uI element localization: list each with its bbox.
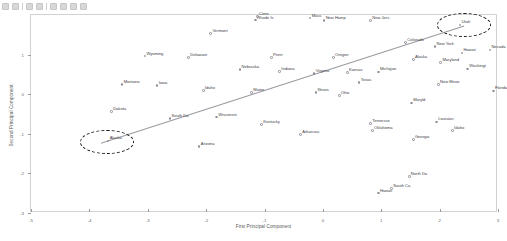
x-tick-label: 0 bbox=[322, 218, 324, 223]
x-tick bbox=[89, 209, 90, 212]
data-point-label: South Da bbox=[172, 113, 189, 118]
outlier-high-ellipse bbox=[437, 13, 491, 37]
data-point-label: Kansas bbox=[349, 67, 363, 72]
x-tick-label: -3 bbox=[146, 218, 150, 223]
data-point-label: Arkansas bbox=[302, 129, 319, 134]
data-point-label: Florida bbox=[495, 85, 507, 90]
data-point-label: Ohio bbox=[341, 90, 350, 95]
zoom-out-icon[interactable] bbox=[50, 3, 57, 10]
data-point-label: New Hamp bbox=[326, 15, 346, 20]
data-point-label: Arizona bbox=[201, 141, 215, 146]
y-axis-label: Second Principal Component bbox=[9, 66, 14, 166]
data-point-label: Idaho bbox=[205, 85, 215, 90]
data-point-label: New York bbox=[437, 41, 454, 46]
x-tick bbox=[323, 209, 324, 212]
save-icon[interactable] bbox=[26, 3, 33, 10]
x-tick-label: 1 bbox=[380, 218, 382, 223]
data-point-label: Georgia bbox=[415, 134, 429, 139]
toolbar bbox=[0, 0, 507, 12]
toolbar-divider bbox=[22, 3, 23, 10]
x-tick bbox=[381, 209, 382, 212]
data-point-label: Kentucky bbox=[263, 119, 280, 124]
y-tick bbox=[28, 213, 31, 214]
data-point-label: Hawaii bbox=[380, 188, 392, 193]
zoom-in-icon[interactable] bbox=[36, 3, 43, 10]
x-tick-label: -5 bbox=[29, 218, 33, 223]
config-icon[interactable] bbox=[70, 3, 77, 10]
data-point-label: Iowa bbox=[159, 80, 168, 85]
data-point-label: Michigan bbox=[380, 66, 396, 71]
y-tick bbox=[28, 173, 31, 174]
x-tick bbox=[31, 209, 32, 212]
data-point-label: Hawaii bbox=[463, 47, 475, 52]
data-point-label: New Mexic bbox=[440, 79, 460, 84]
x-tick-label: -2 bbox=[204, 218, 208, 223]
data-point-label: Washingt bbox=[469, 63, 486, 68]
data-point-label: Montana bbox=[124, 79, 140, 84]
x-tick-label: 2 bbox=[438, 218, 440, 223]
data-point-label: Delaware bbox=[190, 52, 207, 57]
data-point-label: Wyoming bbox=[146, 51, 163, 56]
data-point-label: Mass bbox=[312, 13, 322, 18]
x-tick bbox=[265, 209, 266, 212]
data-point-label: Maryld bbox=[413, 97, 425, 102]
outlier-low-ellipse bbox=[80, 130, 134, 154]
x-tick-label: 3 bbox=[497, 218, 499, 223]
data-point-label: South Ca bbox=[393, 183, 410, 188]
data-point-label: Idaho bbox=[454, 125, 464, 130]
y-tick-label: 1 bbox=[22, 52, 24, 57]
data-point-label: Wisconsin bbox=[218, 112, 236, 117]
x-tick-label: -1 bbox=[263, 218, 267, 223]
x-tick bbox=[206, 209, 207, 212]
data-point-label: Conn bbox=[259, 11, 269, 16]
data-point-label: Louisian bbox=[438, 116, 453, 121]
open-icon[interactable] bbox=[12, 3, 19, 10]
data-point-label: Penn bbox=[273, 52, 282, 57]
plot-area: Rhode IsConnMassNew HampNew JersVermontU… bbox=[30, 14, 497, 212]
x-tick bbox=[498, 209, 499, 212]
scatter-plot-figure: Second Principal Component Rhode IsConnM… bbox=[0, 12, 507, 241]
x-tick-label: -4 bbox=[87, 218, 91, 223]
data-point-label: Maryland bbox=[442, 57, 459, 62]
y-tick-label: -1 bbox=[20, 131, 24, 136]
x-tick bbox=[148, 209, 149, 212]
data-point-label: Illinois bbox=[317, 87, 328, 92]
data-point-label: Colorado bbox=[407, 37, 423, 42]
y-tick bbox=[28, 94, 31, 95]
new-icon[interactable] bbox=[2, 3, 9, 10]
trend-line-layer bbox=[31, 15, 498, 213]
data-point-label: Oregon bbox=[335, 52, 349, 57]
data-point-label: Oklahoma bbox=[374, 125, 393, 130]
data-point-label: Maine bbox=[253, 87, 264, 92]
data-point-label: Texas bbox=[361, 77, 372, 82]
data-point-label: New Jers bbox=[372, 15, 389, 20]
y-tick-label: 0 bbox=[22, 92, 24, 97]
data-point-label: Dakota bbox=[113, 106, 126, 111]
data-point-label: Vermont bbox=[212, 28, 227, 33]
data-point-label: Nevada bbox=[491, 44, 505, 49]
data-point-label: North Da bbox=[411, 171, 427, 176]
x-tick bbox=[440, 209, 441, 212]
data-point-label: Tennesse bbox=[372, 118, 389, 123]
y-tick-label: -3 bbox=[20, 211, 24, 216]
data-point-label: Nebraska bbox=[242, 64, 259, 69]
data-point-label: Indiana bbox=[281, 66, 294, 71]
y-tick bbox=[28, 134, 31, 135]
y-tick-label: -2 bbox=[20, 171, 24, 176]
data-point-label: Alaska bbox=[415, 54, 427, 59]
export-icon[interactable] bbox=[80, 3, 87, 10]
x-axis-label: First Principal Component bbox=[30, 224, 497, 229]
data-point-label: Virginia bbox=[316, 68, 329, 73]
pan-icon[interactable] bbox=[60, 3, 67, 10]
toolbar-divider bbox=[46, 3, 47, 10]
y-tick bbox=[28, 55, 31, 56]
